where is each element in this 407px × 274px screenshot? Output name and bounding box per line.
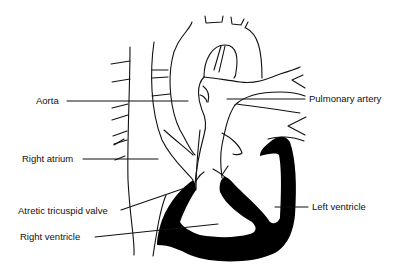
label-atretic-tricuspid-valve: Atretic tricuspid valve — [18, 206, 108, 216]
vena-cava-outline — [111, 47, 134, 255]
label-left-ventricle: Left ventricle — [312, 202, 366, 212]
label-aorta: Aorta — [36, 96, 59, 106]
label-right-ventricle: Right ventricle — [20, 232, 80, 242]
heart-diagram: Aorta Pulmonary artery Right atrium Atre… — [0, 0, 407, 274]
leader-lines — [67, 99, 308, 237]
label-pulmonary-artery: Pulmonary artery — [309, 94, 381, 104]
ventricle-wall — [157, 137, 296, 262]
label-right-atrium: Right atrium — [22, 154, 73, 164]
